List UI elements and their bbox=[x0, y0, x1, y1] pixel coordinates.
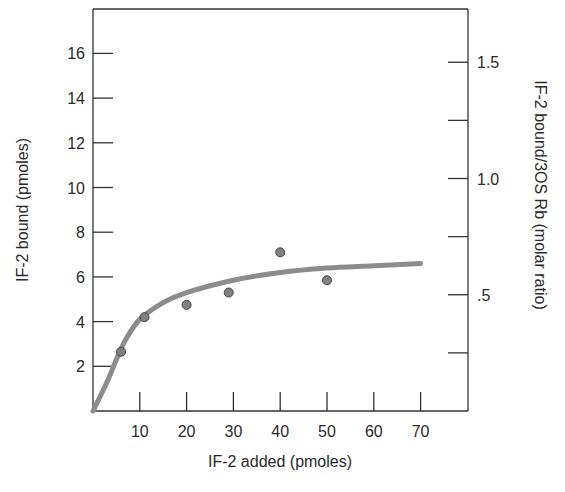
x-tick-label: 10 bbox=[131, 423, 149, 440]
y2-tick-label: .5 bbox=[477, 287, 490, 304]
y-tick-label: 16 bbox=[67, 45, 85, 62]
y-axis-title: IF-2 bound (pmoles) bbox=[14, 138, 31, 282]
data-point bbox=[276, 248, 285, 257]
data-point bbox=[323, 276, 332, 285]
fitted-curve bbox=[93, 263, 421, 411]
y2-axis-title: IF-2 bound/3OS Rb (molar ratio) bbox=[532, 80, 549, 309]
data-point bbox=[224, 288, 233, 297]
y-tick-label: 6 bbox=[76, 269, 85, 286]
data-point bbox=[182, 300, 191, 309]
x-tick-label: 60 bbox=[365, 423, 383, 440]
x-axis-title: IF-2 added (pmoles) bbox=[208, 453, 352, 470]
right-y-axis-ticks: .51.01.5 bbox=[448, 54, 499, 353]
data-point bbox=[117, 347, 126, 356]
left-y-axis-ticks: 246810121416 bbox=[67, 45, 113, 375]
y2-tick-label: 1.5 bbox=[477, 54, 499, 71]
y-tick-label: 2 bbox=[76, 358, 85, 375]
data-point bbox=[140, 313, 149, 322]
x-tick-label: 20 bbox=[178, 423, 196, 440]
x-tick-label: 30 bbox=[225, 423, 243, 440]
y-tick-label: 12 bbox=[67, 135, 85, 152]
y-tick-label: 10 bbox=[67, 180, 85, 197]
y-tick-label: 8 bbox=[76, 224, 85, 241]
y2-tick-label: 1.0 bbox=[477, 171, 499, 188]
plot-frame bbox=[93, 9, 468, 411]
x-tick-label: 70 bbox=[412, 423, 430, 440]
chart: 246810121416 .51.01.5 10203040506070 IF-… bbox=[0, 0, 565, 492]
x-axis-ticks: 10203040506070 bbox=[131, 392, 430, 440]
x-tick-label: 40 bbox=[271, 423, 289, 440]
data-points bbox=[117, 248, 332, 356]
y-tick-label: 4 bbox=[76, 314, 85, 331]
x-tick-label: 50 bbox=[318, 423, 336, 440]
y-tick-label: 14 bbox=[67, 90, 85, 107]
